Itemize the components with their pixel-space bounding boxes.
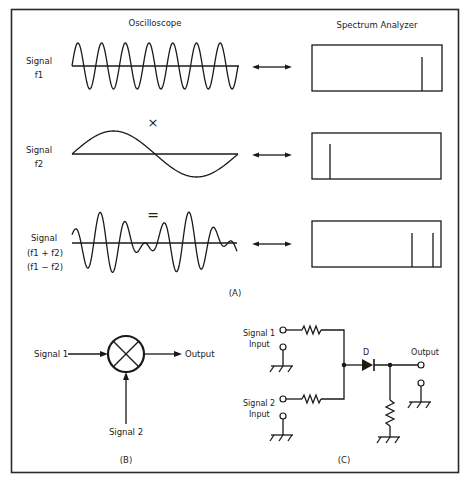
- arrow-icon: [100, 351, 108, 357]
- circuit-signal1-label: Signal 1: [243, 329, 275, 338]
- panel-c-caption: (C): [338, 455, 351, 465]
- double-arrow-icon: [252, 153, 292, 158]
- input2-terminal: [280, 396, 286, 402]
- panel-b: Signal 1 Output Signal 2 (B): [34, 336, 215, 465]
- panel-a: Oscilloscope Spectrum Analyzer Signal f1…: [26, 18, 442, 298]
- signal-f2-sublabel: f2: [35, 159, 43, 169]
- input2-ground-terminal: [280, 413, 286, 419]
- signal-difference-label: (f1 − f2): [27, 262, 63, 272]
- signal-f1-sublabel: f1: [35, 70, 43, 80]
- panel-c: Signal 1 Input Signal 2 Input: [243, 326, 439, 465]
- equals-operator: =: [147, 207, 159, 223]
- spectrum-analyzer-header: Spectrum Analyzer: [337, 20, 418, 30]
- mixer-output-label: Output: [185, 349, 215, 359]
- ground-icon: [408, 386, 431, 408]
- input1-ground-terminal: [280, 344, 286, 350]
- double-arrow-icon: [252, 242, 292, 247]
- multiply-operator: ×: [148, 115, 159, 130]
- output-terminal: [418, 362, 424, 368]
- circuit-signal2-label: Signal 2: [243, 399, 275, 408]
- input1-terminal: [280, 327, 286, 333]
- spectrum-box-mixed: [312, 221, 441, 267]
- resistor-icon: [302, 326, 321, 334]
- signal-f2-label: Signal: [26, 145, 52, 155]
- mixer-diagram: Oscilloscope Spectrum Analyzer Signal f1…: [0, 0, 460, 478]
- mixer-signal1-label: Signal 1: [34, 349, 68, 359]
- row-mixed: Signal (f1 + f2) (f1 − f2): [27, 212, 441, 272]
- output-ground-terminal: [418, 380, 424, 386]
- outer-frame: [12, 10, 459, 473]
- circuit-signal2-sublabel: Input: [249, 410, 270, 419]
- signal-mixed-label: Signal: [31, 233, 57, 243]
- ground-icon: [377, 437, 400, 443]
- ground-icon: [270, 419, 293, 441]
- panel-a-caption: (A): [229, 288, 241, 298]
- ground-icon: [270, 350, 293, 372]
- arrow-icon: [174, 351, 182, 357]
- spectrum-box-f2: [312, 133, 441, 179]
- oscilloscope-header: Oscilloscope: [128, 18, 181, 28]
- diode-label: D: [363, 348, 369, 357]
- mixer-signal2-label: Signal 2: [109, 427, 143, 437]
- circuit-signal1-sublabel: Input: [249, 340, 270, 349]
- signal-sum-label: (f1 + f2): [27, 248, 63, 258]
- circuit-output-label: Output: [411, 348, 439, 357]
- row-f1: Signal f1: [26, 43, 442, 91]
- double-arrow-icon: [252, 65, 292, 70]
- resistor-icon: [302, 395, 321, 403]
- load-resistor-icon: [386, 400, 394, 426]
- panel-b-caption: (B): [120, 455, 132, 465]
- arrow-icon: [123, 372, 129, 380]
- row-f2: Signal f2: [26, 131, 441, 179]
- signal-f1-label: Signal: [26, 56, 52, 66]
- diode-icon: [362, 359, 374, 371]
